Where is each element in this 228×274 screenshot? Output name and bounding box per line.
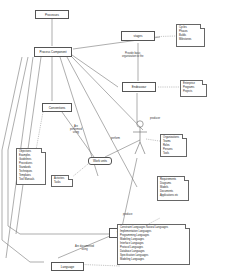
node-work-units[interactable]: Work units [88, 157, 112, 165]
producer-actor-icon [132, 120, 148, 160]
note-stages: CyclesPhasesBuildsMilestones [176, 24, 205, 47]
edge-label-provide-basic: Provide basic organization to the [122, 52, 143, 58]
edge-label-performed-using: Are performed using [70, 125, 82, 135]
note-language: Constraint Languages Natural LanguagesIm… [117, 224, 190, 265]
edge-label-produce: produce [123, 213, 132, 216]
node-processes[interactable]: Processes [35, 10, 69, 19]
edge-label-perform: perform [111, 137, 120, 140]
node-endeavour[interactable]: Endeavour [122, 82, 156, 92]
note-work-units: ActivitiesTasks [51, 175, 73, 187]
node-conventions[interactable]: Conventions [42, 103, 72, 112]
node-stages[interactable]: stages [121, 31, 155, 41]
note-producer: OrganizationsTeamsRolesPersonsTools [160, 134, 187, 157]
note-conventions: ObjectivesExamplesGuidelinesProceduresSt… [16, 148, 46, 185]
edge-label-documented-using: Are documented using [75, 245, 94, 251]
note-work-product: RequirementsDiagramsModelsDocumentsAppli… [157, 176, 189, 201]
note-endeavour: EnterpriseProgramsProjects [180, 80, 207, 97]
node-language[interactable]: Language [51, 262, 84, 271]
producer-label: producer [150, 117, 160, 120]
node-process-component[interactable]: Process Component [34, 47, 72, 57]
